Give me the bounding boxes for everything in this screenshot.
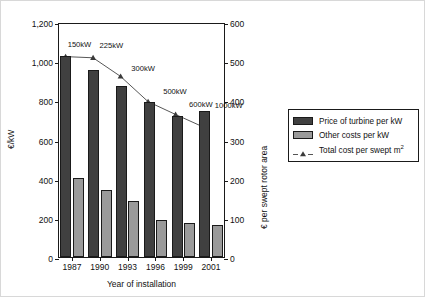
x-tick [128, 257, 129, 261]
x-tick-label: 1996 [146, 263, 165, 272]
legend-item-total: Total cost per swept m2 [293, 142, 414, 156]
legend-item-price: Price of turbine per kW [293, 114, 414, 128]
point-annotation: 600kW [189, 101, 213, 109]
x-tick [183, 257, 184, 261]
x-axis-title: Year of installation [58, 279, 225, 289]
y-tick-label-right: 200 [230, 176, 244, 185]
bar-other-costs [128, 201, 139, 257]
x-tick-label: 1993 [118, 263, 137, 272]
point-annotation: 225kW [100, 42, 124, 50]
y-tick-label-left: 1,200 [32, 20, 53, 29]
y-tick-left [55, 181, 59, 182]
x-tick-label: 1990 [90, 263, 109, 272]
bar-other-costs [184, 223, 195, 257]
bar-other-costs [73, 178, 84, 257]
bar-price-of-turbine [88, 70, 99, 257]
x-tick-label: 2001 [202, 263, 221, 272]
legend-label-total-sup: 2 [400, 144, 403, 150]
bar-price-of-turbine [60, 56, 71, 257]
y-tick-label-left: 0 [48, 255, 53, 264]
y-tick-label-left: 600 [39, 137, 53, 146]
light-gray-swatch [293, 131, 313, 139]
chart-legend: Price of turbine per kW Other costs per … [288, 109, 419, 162]
bar-price-of-turbine [172, 116, 183, 257]
point-annotation: 500kW [163, 88, 187, 96]
x-tick [100, 257, 101, 261]
y-tick-label-right: 300 [230, 137, 244, 146]
y-axis-title-right: € per swept rotor area [259, 146, 269, 229]
y-tick-right [224, 24, 228, 25]
point-annotation: 1000kW [215, 102, 243, 110]
y-tick-label-right: 0 [230, 255, 235, 264]
y-tick-right [224, 181, 228, 182]
y-tick-left [55, 63, 59, 64]
point-annotation: 150kW [68, 41, 92, 49]
plot-area: 02004006008001,0001,20001002003004005006… [58, 23, 225, 258]
y-tick-right [224, 259, 228, 260]
bar-other-costs [101, 190, 112, 257]
y-tick-left [55, 220, 59, 221]
x-tick [211, 257, 212, 261]
y-tick-left [55, 24, 59, 25]
y-axis-title-left: €/kW [6, 130, 16, 149]
legend-label-total-text: Total cost per swept m [319, 145, 400, 154]
y-tick-label-left: 200 [39, 216, 53, 225]
legend-label-other: Other costs per kW [319, 131, 389, 140]
legend-item-other: Other costs per kW [293, 128, 414, 142]
legend-label-price: Price of turbine per kW [319, 117, 402, 126]
wind-turbine-cost-chart: €/kW € per swept rotor area Year of inst… [0, 0, 425, 297]
x-tick [155, 257, 156, 261]
y-tick-label-left: 400 [39, 176, 53, 185]
bar-price-of-turbine [116, 86, 127, 257]
y-tick-left [55, 259, 59, 260]
bar-price-of-turbine [199, 111, 210, 257]
y-tick-label-left: 800 [39, 98, 53, 107]
point-annotation: 300kW [131, 65, 155, 73]
y-tick-label-left: 1,000 [32, 59, 53, 68]
legend-label-total: Total cost per swept m2 [319, 144, 404, 155]
dark-gray-swatch [293, 117, 313, 125]
x-tick-label: 1987 [62, 263, 81, 272]
y-tick-right [224, 220, 228, 221]
x-tick [72, 257, 73, 261]
line-marker-icon [293, 145, 313, 154]
x-tick-label: 1999 [174, 263, 193, 272]
y-tick-right [224, 63, 228, 64]
bar-price-of-turbine [144, 102, 155, 257]
y-tick-label-right: 500 [230, 59, 244, 68]
y-tick-right [224, 142, 228, 143]
y-tick-left [55, 102, 59, 103]
bar-other-costs [156, 220, 167, 257]
bar-other-costs [212, 225, 223, 257]
y-tick-label-right: 100 [230, 216, 244, 225]
y-tick-left [55, 142, 59, 143]
y-tick-label-right: 600 [230, 20, 244, 29]
